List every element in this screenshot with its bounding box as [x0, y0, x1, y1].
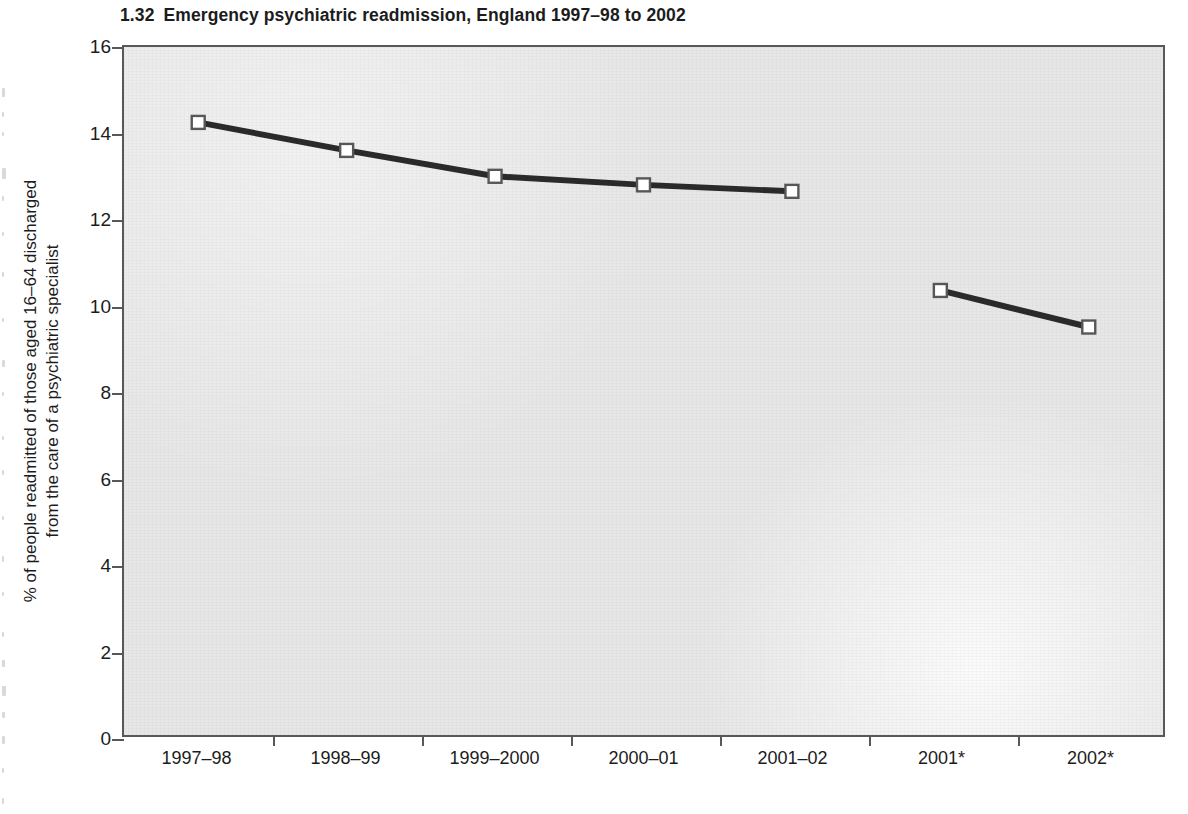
x-axis-tick — [571, 735, 573, 746]
data-point-marker — [1082, 321, 1095, 334]
y-axis-tick — [112, 393, 124, 395]
series-line-2 — [940, 290, 1088, 327]
scan-edge-artifacts — [0, 0, 14, 814]
x-axis-tick-label: 2001–02 — [757, 748, 827, 769]
scan-speck — [2, 112, 4, 117]
y-axis-tick-label: 16 — [71, 36, 111, 58]
x-axis-tick — [720, 735, 722, 746]
scan-speck — [2, 88, 5, 97]
chart-title-number: 1.32 — [120, 5, 154, 25]
y-axis-tick — [112, 134, 124, 136]
y-axis-tick-label: 12 — [71, 209, 111, 231]
scan-speck — [2, 660, 5, 667]
scan-speck — [2, 168, 6, 179]
data-point-marker — [637, 178, 650, 191]
y-axis-tick-label: 4 — [71, 555, 111, 577]
scan-speck — [2, 360, 5, 367]
scan-speck — [2, 436, 4, 440]
scan-speck — [2, 736, 5, 744]
scan-speck — [2, 686, 6, 696]
x-axis-tick-label: 1999–2000 — [449, 748, 539, 769]
y-axis-tick — [112, 739, 124, 741]
x-axis-tick-label: 1997–98 — [161, 748, 231, 769]
y-axis-tick-label: 6 — [71, 469, 111, 491]
scan-speck — [2, 272, 4, 277]
x-axis-tick-label: 2001* — [918, 748, 965, 769]
scan-speck — [2, 632, 4, 637]
y-axis-tick-label: 2 — [71, 642, 111, 664]
y-axis-tick — [112, 480, 124, 482]
scan-speck — [2, 470, 4, 475]
y-axis-tick — [112, 653, 124, 655]
data-point-marker — [340, 144, 353, 157]
data-point-marker — [192, 116, 205, 129]
scan-speck — [2, 232, 4, 236]
y-axis-title-line2: from the care of a psychiatric specialis… — [42, 180, 64, 602]
scan-speck — [2, 392, 4, 396]
x-axis-tick — [869, 735, 871, 746]
x-axis-tick — [1018, 735, 1020, 746]
x-axis-tick-label: 1998–99 — [310, 748, 380, 769]
y-axis-tick-label: 8 — [71, 382, 111, 404]
data-point-marker — [785, 185, 798, 198]
x-axis-tick — [273, 735, 275, 746]
series-plot — [124, 47, 1163, 736]
scan-speck — [2, 132, 4, 136]
data-point-marker — [934, 284, 947, 297]
scan-speck — [2, 712, 5, 718]
y-axis-tick-label: 14 — [71, 123, 111, 145]
scan-speck — [2, 516, 4, 520]
y-axis-tick — [112, 47, 124, 49]
y-axis-tick — [112, 220, 124, 222]
y-axis-tick-label: 0 — [71, 728, 111, 750]
y-axis-tick — [112, 566, 124, 568]
scan-speck — [2, 768, 4, 773]
y-axis-title-line1: % of people readmitted of those aged 16–… — [20, 180, 42, 602]
y-axis-tick — [112, 307, 124, 309]
scan-speck — [2, 196, 4, 201]
scan-speck — [2, 592, 4, 596]
chart-title-text: Emergency psychiatric readmission, Engla… — [163, 5, 685, 25]
x-axis-tick-label: 2000–01 — [608, 748, 678, 769]
x-axis-tick-label: 2002* — [1067, 748, 1114, 769]
y-axis-title: % of people readmitted of those aged 16–… — [14, 45, 70, 737]
scan-speck — [2, 556, 4, 562]
plot-area: 0246810121416 — [122, 45, 1165, 737]
chart-title: 1.32Emergency psychiatric readmission, E… — [120, 5, 686, 26]
x-axis-tick — [422, 735, 424, 746]
scan-speck — [2, 798, 4, 804]
scan-speck — [2, 318, 4, 322]
data-point-marker — [489, 170, 502, 183]
y-axis-tick-label: 10 — [71, 296, 111, 318]
chart-page: 1.32Emergency psychiatric readmission, E… — [0, 0, 1188, 814]
